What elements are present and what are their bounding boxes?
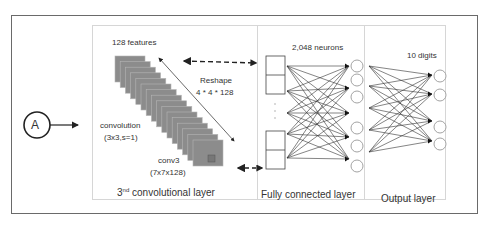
reshape-label: Reshape bbox=[200, 76, 232, 85]
output-connections bbox=[369, 66, 432, 152]
fc-layer-title: Fully connected layer bbox=[261, 189, 356, 200]
features-label: 128 features bbox=[112, 38, 156, 47]
digits-label: 10 digits bbox=[407, 51, 437, 60]
convolution-params: (3x3,s=1) bbox=[104, 133, 138, 142]
fc-neurons bbox=[351, 60, 363, 172]
conv-shape: (7x7x128) bbox=[150, 168, 186, 177]
conv-name: conv3 bbox=[158, 156, 179, 165]
reshape-vector bbox=[266, 56, 285, 169]
output-layer-title: Output layer bbox=[381, 193, 435, 204]
convolution-label: convolution bbox=[100, 121, 140, 130]
input-node-label: A bbox=[31, 118, 39, 132]
reshape-dims: 4 * 4 * 128 bbox=[196, 88, 233, 97]
output-neurons bbox=[434, 70, 446, 150]
conv-layer-title: 3nd convolutional layer bbox=[117, 187, 215, 198]
neurons-label: 2,048 neurons bbox=[292, 43, 343, 52]
fc-connections bbox=[287, 64, 349, 162]
